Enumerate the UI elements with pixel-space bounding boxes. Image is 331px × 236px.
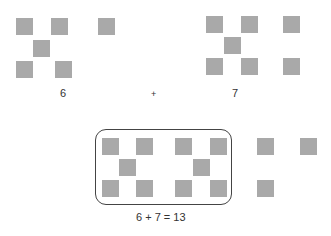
square bbox=[224, 37, 241, 54]
boxed-square bbox=[210, 180, 227, 197]
square bbox=[283, 16, 300, 33]
boxed-square bbox=[119, 159, 136, 176]
boxed-square bbox=[175, 180, 192, 197]
outside-square bbox=[300, 138, 317, 155]
square bbox=[55, 61, 72, 78]
square bbox=[16, 18, 33, 35]
outside-square bbox=[257, 138, 274, 155]
left-group-label: 6 bbox=[60, 87, 66, 99]
square bbox=[16, 61, 33, 78]
square bbox=[241, 58, 258, 75]
boxed-square bbox=[102, 180, 119, 197]
plus-operator: + bbox=[151, 88, 156, 100]
square bbox=[33, 40, 50, 57]
outside-square bbox=[257, 180, 274, 197]
boxed-square bbox=[193, 159, 210, 176]
square bbox=[283, 58, 300, 75]
equation-label: 6 + 7 = 13 bbox=[136, 211, 186, 223]
square bbox=[241, 16, 258, 33]
boxed-square bbox=[102, 138, 119, 155]
square bbox=[206, 58, 223, 75]
boxed-square bbox=[136, 138, 153, 155]
square bbox=[206, 16, 223, 33]
square bbox=[51, 18, 68, 35]
right-group-label: 7 bbox=[232, 87, 238, 99]
boxed-square bbox=[136, 180, 153, 197]
boxed-square bbox=[210, 138, 227, 155]
boxed-square bbox=[175, 138, 192, 155]
square bbox=[98, 18, 115, 35]
